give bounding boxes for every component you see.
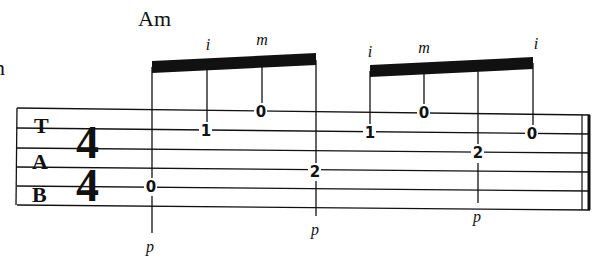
string-line-6 (17, 205, 590, 210)
finger-label: p (145, 238, 154, 256)
chord-name: Am (138, 6, 171, 31)
finger-label: m (418, 39, 430, 56)
string-line-5 (17, 186, 590, 191)
finger-label: i (368, 43, 372, 60)
string-line-3 (17, 148, 590, 153)
fret-number: 0 (419, 104, 429, 122)
finger-label: m (256, 31, 268, 48)
string-line-1 (17, 108, 590, 115)
string-line-4 (17, 167, 590, 172)
fret-number: 0 (256, 103, 266, 121)
fret-number: 0 (146, 178, 156, 196)
fret-number: 0 (527, 125, 537, 143)
beam-group-2 (370, 57, 533, 77)
tab-label-a: A (32, 149, 48, 174)
finger-label: i (534, 35, 538, 52)
fret-number: 2 (473, 144, 483, 162)
beam-group-1 (152, 53, 316, 73)
finger-label: p (472, 208, 481, 226)
tab-label: T A B (32, 113, 49, 207)
fret-number: 2 (310, 163, 320, 181)
tablature-diagram: n Am T A B 4 4 (0, 0, 603, 270)
tab-label-t: T (34, 113, 49, 138)
fret-number: 1 (365, 124, 375, 142)
finger-label: i (206, 36, 210, 53)
tab-label-b: B (32, 182, 47, 207)
start-barline (16, 108, 17, 205)
tab-staff (16, 108, 590, 210)
fret-number: 1 (201, 122, 211, 140)
string-line-2 (17, 128, 590, 134)
final-barline (582, 115, 589, 210)
clipped-text: n (0, 55, 5, 80)
finger-label: p (310, 221, 319, 239)
time-sig-bottom: 4 (76, 160, 99, 211)
time-signature: 4 4 (76, 117, 99, 211)
